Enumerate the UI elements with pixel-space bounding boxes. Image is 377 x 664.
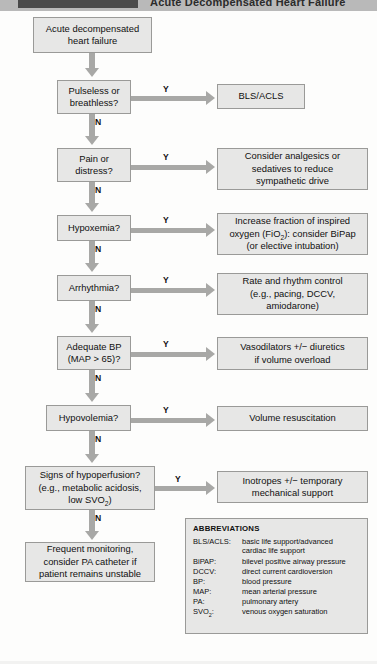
abbreviation-row: MAP: mean arterial pressure	[193, 587, 361, 597]
flowchart-page: Acute Decompensated Heart Failure Acute …	[0, 0, 377, 664]
node-action-2-label: Increase fraction of inspiredoxygen (FiO…	[221, 215, 364, 253]
abbreviation-key: BLS/ACLS:	[193, 537, 242, 557]
node-decision-6: Signs of hypoperfusion?(e.g., metabolic …	[25, 466, 155, 510]
branch-label-d4-yes: Y	[163, 339, 169, 349]
abbreviation-row: DCCV: direct current cardioversion	[193, 567, 361, 577]
branch-label-d3-no: N	[95, 304, 101, 314]
node-action-5: Volume resuscitation	[217, 406, 368, 431]
abbreviation-value: venous oxygen saturation	[242, 607, 361, 617]
node-action-4-label: Vasodilators +/− diureticsif volume over…	[221, 341, 364, 366]
abbreviation-value: pulmonary artery	[242, 597, 361, 607]
abbreviations-table: BLS/ACLS: basic life support/advancedcar…	[193, 537, 361, 617]
node-decision-5-label: Hypovolemia?	[50, 412, 127, 425]
node-action-6: Inotropes +/− temporarymechanical suppor…	[217, 471, 368, 503]
arrowhead-d0-no	[85, 136, 99, 145]
arrowhead-d4-no	[85, 393, 99, 402]
node-decision-0-label: Pulseless orbreathless?	[61, 85, 127, 110]
branch-label-d2-no: N	[95, 244, 101, 254]
node-decision-4: Adequate BP(MAP > 65)?	[57, 336, 131, 370]
connector-d5-yes	[131, 418, 208, 423]
branch-label-d1-no: N	[95, 185, 101, 195]
branch-label-d0-yes: Y	[163, 84, 169, 94]
abbreviations-panel: ABBREVIATIONS BLS/ACLS: basic life suppo…	[185, 518, 368, 634]
abbreviations-title: ABBREVIATIONS	[193, 524, 361, 534]
abbreviation-row: BiPAP: bilevel positive airway pressure	[193, 557, 361, 567]
connector-d3-yes	[131, 288, 208, 293]
abbreviation-row: BLS/ACLS: basic life support/advancedcar…	[193, 537, 361, 557]
connector-d1-yes	[131, 165, 208, 170]
node-decision-3-label: Arrhythmia?	[61, 282, 127, 295]
arrowhead-start-to-d0	[85, 68, 99, 77]
node-action-2: Increase fraction of inspiredoxygen (FiO…	[217, 213, 368, 255]
arrowhead-d0-yes	[206, 91, 215, 105]
arrowhead-d1-no	[85, 203, 99, 212]
arrowhead-d2-no	[85, 263, 99, 272]
node-decision-3: Arrhythmia?	[57, 275, 131, 301]
node-decision-0: Pulseless orbreathless?	[57, 80, 131, 114]
abbreviation-key: DCCV:	[193, 567, 242, 577]
header-black-block	[18, 0, 138, 8]
node-action-4: Vasodilators +/− diureticsif volume over…	[217, 337, 368, 370]
node-terminal-label: Frequent monitoring,consider PA catheter…	[29, 543, 151, 581]
node-start-label: Acute decompensatedheart failure	[37, 23, 148, 48]
branch-label-d6-yes: Y	[175, 474, 181, 484]
arrowhead-d5-no	[85, 454, 99, 463]
arrowhead-d4-yes	[206, 347, 215, 361]
node-decision-4-label: Adequate BP(MAP > 65)?	[61, 341, 127, 366]
connector-d2-yes	[131, 228, 208, 233]
page-header-title: Acute Decompensated Heart Failure	[150, 0, 346, 8]
node-action-0-label: BLS/ACLS	[221, 90, 301, 103]
abbreviation-row: PA: pulmonary artery	[193, 597, 361, 607]
abbreviation-value: mean arterial pressure	[242, 587, 361, 597]
branch-label-d3-yes: Y	[163, 275, 169, 285]
node-action-1-label: Consider analgesics orsedatives to reduc…	[221, 150, 364, 188]
abbreviation-key: BiPAP:	[193, 557, 242, 567]
abbreviation-key: MAP:	[193, 587, 242, 597]
arrowhead-d6-no	[85, 531, 99, 540]
abbreviation-row: BP: blood pressure	[193, 577, 361, 587]
node-action-0: BLS/ACLS	[217, 84, 305, 109]
node-terminal: Frequent monitoring,consider PA catheter…	[25, 542, 155, 582]
connector-d0-yes	[131, 96, 208, 101]
branch-label-d5-yes: Y	[163, 405, 169, 415]
branch-label-d1-yes: Y	[163, 152, 169, 162]
abbreviation-key: PA:	[193, 597, 242, 607]
node-action-3-label: Rate and rhythm control(e.g., pacing, DC…	[221, 275, 364, 313]
abbreviation-value: basic life support/advancedcardiac life …	[242, 537, 361, 557]
arrowhead-d3-yes	[206, 283, 215, 297]
branch-label-d4-no: N	[95, 373, 101, 383]
abbreviation-key: BP:	[193, 577, 242, 587]
abbreviation-value: bilevel positive airway pressure	[242, 557, 361, 567]
connector-d6-yes	[155, 486, 208, 491]
node-action-6-label: Inotropes +/− temporarymechanical suppor…	[221, 475, 364, 500]
node-decision-2-label: Hypoxemia?	[61, 222, 127, 235]
page-header-bar: Acute Decompensated Heart Failure	[0, 0, 377, 11]
connector-d4-yes	[131, 352, 208, 357]
abbreviation-row: SVO2: venous oxygen saturation	[193, 607, 361, 617]
abbreviation-value: direct current cardioversion	[242, 567, 361, 577]
arrowhead-d6-yes	[206, 481, 215, 495]
branch-label-d0-no: N	[95, 117, 101, 127]
arrowhead-d5-yes	[206, 413, 215, 427]
node-action-5-label: Volume resuscitation	[221, 412, 364, 425]
arrowhead-d1-yes	[206, 160, 215, 174]
node-action-3: Rate and rhythm control(e.g., pacing, DC…	[217, 273, 368, 315]
branch-label-d6-no: N	[95, 513, 101, 523]
node-decision-1: Pain ordistress?	[57, 148, 131, 182]
branch-label-d5-no: N	[95, 434, 101, 444]
node-start: Acute decompensatedheart failure	[33, 17, 152, 53]
node-decision-6-label: Signs of hypoperfusion?(e.g., metabolic …	[29, 469, 151, 507]
abbreviation-key: SVO2:	[193, 607, 242, 617]
abbreviation-value: blood pressure	[242, 577, 361, 587]
node-decision-1-label: Pain ordistress?	[61, 153, 127, 178]
node-decision-5: Hypovolemia?	[46, 405, 131, 431]
branch-label-d2-yes: Y	[163, 215, 169, 225]
node-decision-2: Hypoxemia?	[57, 215, 131, 241]
arrowhead-d2-yes	[206, 223, 215, 237]
arrowhead-d3-no	[85, 324, 99, 333]
node-action-1: Consider analgesics orsedatives to reduc…	[217, 148, 368, 190]
